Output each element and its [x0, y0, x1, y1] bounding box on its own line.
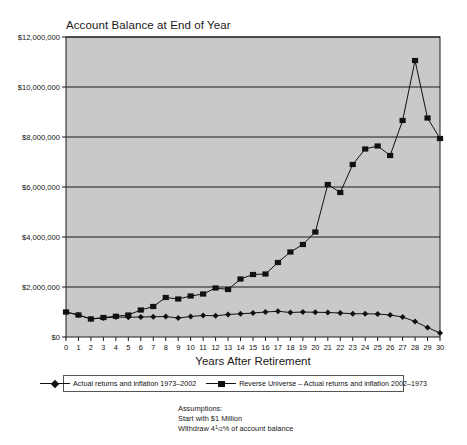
y-axis-ticks [62, 37, 66, 337]
y-tick-label: $12,000,000 [18, 33, 60, 42]
data-point-marker [237, 276, 243, 281]
assumptions-heading: Assumptions: [178, 404, 293, 414]
x-tick-label: 6 [139, 343, 143, 352]
chart-figure: Account Balance at End of Year $0$2,000,… [0, 0, 467, 445]
x-tick-label: 30 [436, 343, 444, 352]
x-tick-label: 22 [336, 343, 344, 352]
data-point-marker [250, 272, 256, 277]
y-tick-label: $6,000,000 [22, 183, 60, 192]
x-tick-label: 15 [249, 343, 257, 352]
data-point-marker [375, 143, 381, 148]
data-point-marker [424, 115, 430, 120]
x-tick-label: 14 [236, 343, 244, 352]
data-point-marker [400, 118, 406, 123]
x-tick-label: 1 [76, 343, 80, 352]
y-tick-label: $0 [52, 333, 60, 342]
data-point-marker [150, 304, 156, 309]
x-tick-label: 0 [64, 343, 68, 352]
x-tick-label: 17 [274, 343, 282, 352]
x-tick-label: 12 [211, 343, 219, 352]
data-point-marker [175, 296, 181, 301]
x-tick-label: 19 [299, 343, 307, 352]
data-point-marker [325, 182, 331, 187]
data-point-marker [63, 309, 69, 314]
x-tick-label: 26 [386, 343, 394, 352]
data-point-marker [213, 285, 219, 290]
data-point-marker [100, 315, 106, 320]
data-point-marker [163, 295, 169, 300]
x-tick-label: 8 [164, 343, 168, 352]
assumptions-line-2: Withdraw 41/2% of account balance [178, 423, 293, 435]
x-tick-label: 29 [423, 343, 431, 352]
x-tick-label: 4 [114, 343, 118, 352]
x-tick-label: 27 [398, 343, 406, 352]
chart-legend: Actual returns and inflation 1973–2002 R… [63, 375, 404, 392]
x-tick-label: 5 [126, 343, 130, 352]
x-axis-ticks [66, 337, 440, 341]
y-tick-label: $8,000,000 [22, 133, 60, 142]
data-point-marker [387, 153, 393, 158]
x-tick-label: 10 [187, 343, 195, 352]
y-tick-label: $10,000,000 [18, 83, 60, 92]
diamond-marker-icon [40, 379, 70, 388]
x-tick-label: 23 [349, 343, 357, 352]
data-point-marker [412, 58, 418, 63]
data-point-marker [200, 291, 206, 296]
data-point-marker [350, 162, 356, 167]
x-tick-label: 25 [374, 343, 382, 352]
assumptions-note: Assumptions: Start with $1 Million Withd… [178, 404, 293, 435]
x-tick-label: 3 [101, 343, 105, 352]
x-tick-label: 20 [311, 343, 319, 352]
data-point-marker [75, 312, 81, 317]
data-point-marker [113, 314, 119, 319]
data-point-marker [312, 229, 318, 234]
fraction-glyph: 1/2 [215, 426, 223, 432]
legend-entry-reverse: Reverse Universe – Actual returns and in… [206, 379, 427, 388]
y-axis-tick-labels: $0$2,000,000$4,000,000$6,000,000$8,000,0… [18, 33, 60, 342]
data-point-marker [188, 293, 194, 298]
data-point-marker [225, 287, 231, 292]
x-tick-label: 7 [151, 343, 155, 352]
data-point-marker [125, 312, 131, 317]
x-axis-label: Years After Retirement [66, 355, 440, 367]
data-point-marker [300, 242, 306, 247]
x-tick-label: 13 [224, 343, 232, 352]
x-tick-label: 16 [261, 343, 269, 352]
x-tick-label: 9 [176, 343, 180, 352]
data-point-marker [437, 136, 443, 141]
x-tick-label: 24 [361, 343, 369, 352]
assumptions-line-2-prefix: Withdraw 4 [178, 424, 215, 433]
legend-label-actual: Actual returns and inflation 1973–2002 [73, 379, 196, 388]
data-point-marker [287, 249, 293, 254]
data-point-marker [275, 260, 281, 265]
legend-label-reverse: Reverse Universe – Actual returns and in… [239, 379, 427, 388]
legend-entry-actual: Actual returns and inflation 1973–2002 [40, 379, 196, 388]
y-tick-label: $2,000,000 [22, 283, 60, 292]
assumptions-line-1: Start with $1 Million [178, 414, 293, 424]
data-point-marker [262, 271, 268, 276]
y-tick-label: $4,000,000 [22, 233, 60, 242]
x-tick-label: 18 [286, 343, 294, 352]
x-axis-tick-labels: 0123456789101112131415161718192021222324… [64, 343, 444, 352]
data-point-marker [138, 307, 144, 312]
x-tick-label: 21 [324, 343, 332, 352]
chart-plot-area: $0$2,000,000$4,000,000$6,000,000$8,000,0… [0, 0, 467, 360]
data-point-marker [88, 316, 94, 321]
x-axis-label-text: Years After Retirement [195, 355, 310, 367]
assumptions-line-2-suffix: % of account balance [223, 424, 294, 433]
data-point-marker [362, 146, 368, 151]
x-tick-label: 28 [411, 343, 419, 352]
x-tick-label: 2 [89, 343, 93, 352]
data-point-marker [337, 190, 343, 195]
square-marker-icon [206, 379, 236, 388]
x-tick-label: 11 [199, 343, 207, 352]
